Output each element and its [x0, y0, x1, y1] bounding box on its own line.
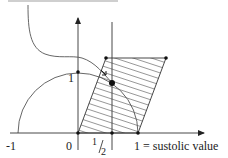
key-points	[76, 56, 168, 135]
hatched-region	[60, 10, 200, 158]
point-intersection	[109, 80, 115, 86]
systolic-diagram: -1 0 1 2 1 = sustolic value 1	[0, 0, 228, 158]
label-half-numerator: 1	[92, 136, 97, 147]
label-one-systolic: 1 = sustolic value	[134, 139, 218, 153]
point-one	[136, 131, 140, 135]
label-neg-one: -1	[6, 139, 16, 153]
point-para-top-right	[164, 56, 168, 60]
label-y-one: 1	[68, 71, 74, 85]
label-half-denominator: 2	[101, 146, 106, 157]
point-origin	[76, 131, 80, 135]
point-para-top-left	[104, 56, 108, 60]
label-zero: 0	[66, 139, 72, 153]
point-y-one	[76, 70, 80, 74]
parallelogram-outline	[78, 58, 166, 133]
point-half	[110, 131, 114, 135]
